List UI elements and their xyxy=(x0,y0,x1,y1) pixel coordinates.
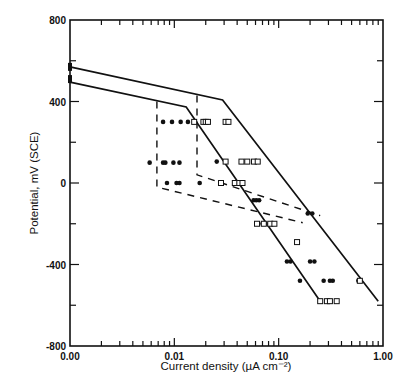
filled-circle-point xyxy=(178,120,183,125)
filled-circle-point xyxy=(171,160,176,165)
filled-circle-point xyxy=(298,279,303,284)
open-square-point xyxy=(272,221,277,226)
filled-circle-point xyxy=(197,181,202,186)
x-axis-title: Current density (µA cm⁻²) xyxy=(161,360,292,372)
open-square-point xyxy=(318,299,323,304)
polarization-chart: 8004000-400-800 0.000.010.101.00 Current… xyxy=(0,0,413,390)
filled-circle-point xyxy=(257,198,262,203)
filled-circle-point xyxy=(312,259,317,264)
solid-boundary-line xyxy=(70,82,320,301)
filled-circle-point xyxy=(214,159,219,164)
open-square-point xyxy=(205,119,210,124)
filled-circle-point xyxy=(321,279,326,284)
filled-circle-point xyxy=(163,160,168,165)
plot-frame xyxy=(70,20,383,346)
y-tick-label: 0 xyxy=(60,178,66,189)
open-square-point xyxy=(245,159,250,164)
y-tick-label: 800 xyxy=(49,15,66,26)
boundary-lines xyxy=(70,67,378,301)
x-tick-label: 0.00 xyxy=(60,351,80,362)
filled-circle-point xyxy=(310,211,315,216)
y-tick-labels: 8004000-400-800 xyxy=(46,15,66,352)
filled-circle-point xyxy=(330,279,335,284)
open-square-point xyxy=(255,221,260,226)
open-square-point xyxy=(261,221,266,226)
filled-circle-point xyxy=(165,181,170,186)
open-square-point xyxy=(218,181,223,186)
open-square-point xyxy=(357,278,362,283)
open-square-point xyxy=(226,119,231,124)
y-tick-label: -400 xyxy=(46,260,66,271)
plot-axes xyxy=(68,20,383,346)
open-square-point xyxy=(239,159,244,164)
filled-circle-point xyxy=(177,160,182,165)
open-square-point xyxy=(255,159,260,164)
y-tick-label: 400 xyxy=(49,97,66,108)
dashed-boundary-line xyxy=(197,95,320,215)
x-tick-label: 1.00 xyxy=(373,351,393,362)
filled-circle-point xyxy=(147,160,152,165)
open-square-point xyxy=(295,240,300,245)
filled-circle-point xyxy=(177,181,182,186)
filled-circle-point xyxy=(170,120,175,125)
open-square-point xyxy=(240,181,245,186)
open-square-point xyxy=(192,119,197,124)
open-square-point xyxy=(334,299,339,304)
filled-circle-point xyxy=(161,120,166,125)
filled-circle-point xyxy=(305,211,310,216)
open-square-point xyxy=(327,299,332,304)
y-axis-title: Potential, mV (SCE) xyxy=(28,131,40,234)
filled-circle-point xyxy=(308,259,313,264)
filled-circle-point xyxy=(288,259,293,264)
open-square-point xyxy=(223,159,228,164)
filled-circle-point xyxy=(186,120,191,125)
